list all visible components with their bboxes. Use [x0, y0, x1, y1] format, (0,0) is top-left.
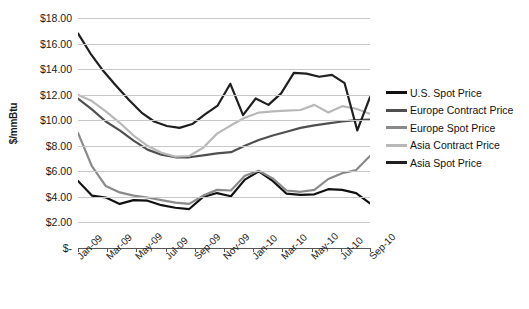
legend-item[interactable]: Europe Spot Price	[386, 119, 526, 137]
gridline	[78, 120, 370, 121]
line-series	[78, 33, 370, 130]
line-series	[78, 95, 370, 157]
legend-color-swatch	[386, 91, 407, 94]
legend-item[interactable]: Asia Contract Price	[386, 137, 526, 155]
legend-label: Europe Contract Price	[410, 104, 513, 116]
gridline	[78, 222, 370, 223]
gridline	[78, 146, 370, 147]
gridline	[78, 171, 370, 172]
y-axis-tick-labels: $18.00$16.00$14.00$12.00$10.00$8.00$6.00…	[8, 0, 72, 309]
legend-label: U.S. Spot Price	[410, 87, 482, 99]
legend-label: Europe Spot Price	[410, 122, 495, 134]
plot-area	[78, 18, 370, 248]
series-lines	[78, 18, 370, 248]
gridline	[78, 197, 370, 198]
gridline	[78, 44, 370, 45]
y-tick-label: $6.00	[12, 165, 72, 177]
y-tick-label: $4.00	[12, 191, 72, 203]
y-tick-label: $14.00	[12, 63, 72, 75]
legend-item[interactable]: Europe Contract Price	[386, 102, 526, 120]
gridline	[78, 95, 370, 96]
y-tick-label: $-	[12, 242, 72, 254]
gas-price-line-chart: $/mmBtu $18.00$16.00$14.00$12.00$10.00$8…	[0, 0, 529, 309]
y-tick-label: $16.00	[12, 38, 72, 50]
legend-color-swatch	[386, 161, 407, 164]
chart-legend: U.S. Spot PriceEurope Contract PriceEuro…	[386, 84, 526, 172]
y-tick-label: $12.00	[12, 89, 72, 101]
x-axis-tick-labels: Jan-09Mar-09May-09Jul-09Sep-09Nov-09Jan-…	[78, 252, 378, 308]
y-tick-label: $18.00	[12, 12, 72, 24]
gridline	[78, 18, 370, 19]
y-tick-label: $10.00	[12, 114, 72, 126]
legend-item[interactable]: U.S. Spot Price	[386, 84, 526, 102]
line-series	[78, 133, 370, 204]
x-tick-label: Sep-10	[367, 231, 398, 262]
y-tick-label: $2.00	[12, 216, 72, 228]
legend-label: Asia Spot Price	[410, 157, 482, 169]
legend-color-swatch	[386, 109, 407, 112]
legend-label: Asia Contract Price	[410, 139, 500, 151]
y-tick-label: $8.00	[12, 140, 72, 152]
legend-color-swatch	[386, 144, 407, 147]
gridline	[78, 69, 370, 70]
legend-item[interactable]: Asia Spot Price	[386, 154, 526, 172]
legend-color-swatch	[386, 126, 407, 129]
line-series	[78, 99, 370, 158]
